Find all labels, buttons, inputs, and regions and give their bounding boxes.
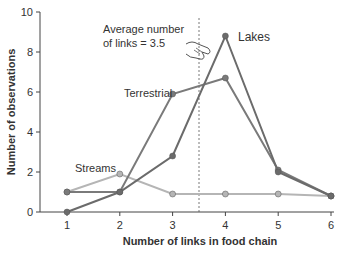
x-axis-title: Number of links in food chain bbox=[123, 235, 278, 247]
x-tick-label: 3 bbox=[170, 219, 176, 231]
label-lakes: Lakes bbox=[238, 30, 270, 44]
y-tick-label: 0 bbox=[27, 206, 33, 218]
x-tick-label: 6 bbox=[328, 219, 334, 231]
y-tick-label: 10 bbox=[21, 6, 33, 18]
annotation-line2: of links = 3.5 bbox=[103, 37, 165, 49]
data-point bbox=[328, 193, 334, 199]
data-point bbox=[64, 209, 70, 215]
x-tick-label: 4 bbox=[222, 219, 228, 231]
y-tick-label: 6 bbox=[27, 86, 33, 98]
data-point bbox=[117, 189, 123, 195]
annotation-line1: Average number bbox=[103, 23, 184, 35]
data-point bbox=[275, 191, 281, 197]
data-point bbox=[222, 33, 228, 39]
data-point bbox=[275, 169, 281, 175]
series-labels: Lakes Terrestrial Streams Average number… bbox=[5, 23, 278, 247]
food-chain-line-chart: 0246810123456 Lakes Terrestrial Streams … bbox=[0, 0, 348, 256]
y-tick-label: 4 bbox=[27, 126, 33, 138]
x-tick-label: 2 bbox=[117, 219, 123, 231]
data-point bbox=[64, 189, 70, 195]
y-tick-label: 8 bbox=[27, 46, 33, 58]
data-point bbox=[170, 191, 176, 197]
data-point bbox=[222, 191, 228, 197]
pointing-hand-icon bbox=[186, 42, 210, 59]
data-point bbox=[170, 153, 176, 159]
x-tick-label: 1 bbox=[64, 219, 70, 231]
data-point bbox=[117, 171, 123, 177]
x-tick-label: 5 bbox=[275, 219, 281, 231]
y-axis-title: Number of observations bbox=[5, 49, 17, 176]
label-streams: Streams bbox=[75, 162, 116, 174]
y-tick-label: 2 bbox=[27, 166, 33, 178]
data-point bbox=[222, 75, 228, 81]
axes: 0246810123456 bbox=[21, 6, 334, 231]
label-terrestrial: Terrestrial bbox=[124, 87, 172, 99]
